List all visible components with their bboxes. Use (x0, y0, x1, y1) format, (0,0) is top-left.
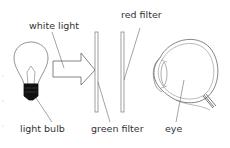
eye-leader (176, 80, 184, 122)
green-filter-leader (98, 82, 110, 122)
eye-icon (153, 39, 218, 110)
eye-label: eye (165, 124, 182, 134)
light-bulb-icon (14, 42, 48, 100)
red-filter-icon (121, 32, 124, 112)
light-bulb-leader (36, 98, 52, 122)
red-filter-leader (124, 28, 140, 80)
red-filter-label: red filter (121, 10, 162, 20)
light-bulb-label: light bulb (20, 124, 65, 134)
arrow-right-icon (53, 53, 95, 85)
green-filter-label: green filter (91, 124, 144, 134)
green-filter-icon (95, 32, 98, 112)
filter-diagram: white light red filter light bulb green … (0, 0, 230, 148)
edge-marks (2, 75, 3, 126)
white-light-label: white light (29, 21, 79, 31)
